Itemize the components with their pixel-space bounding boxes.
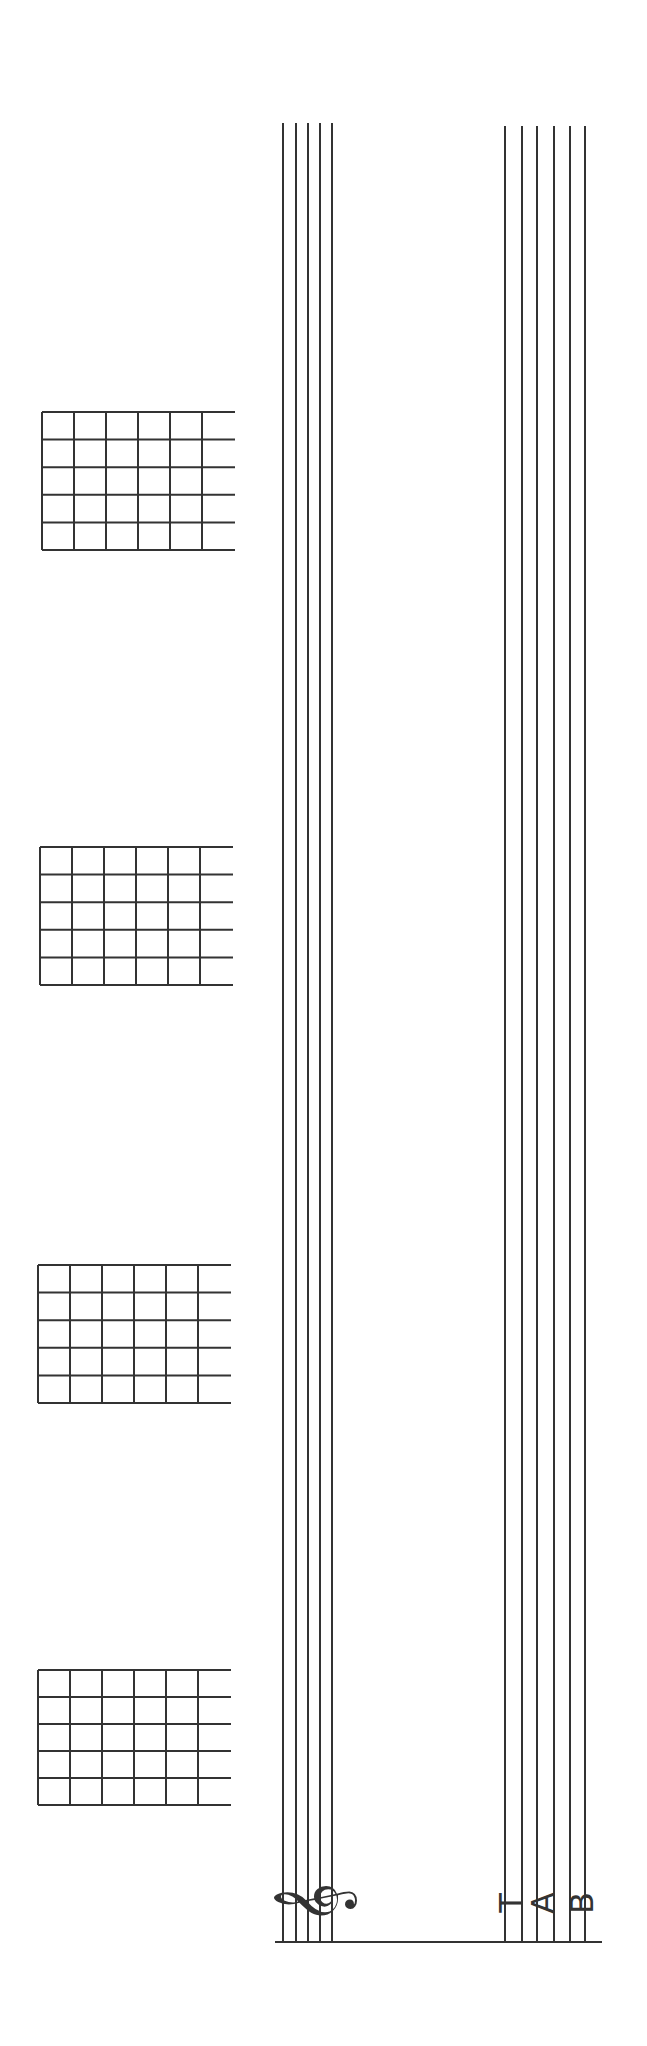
standard-staff bbox=[283, 123, 332, 1942]
chord-grid-1 bbox=[42, 412, 235, 550]
chord-grid-4 bbox=[38, 1670, 231, 1805]
chord-grids bbox=[38, 412, 235, 1805]
chord-grid-2 bbox=[40, 847, 233, 985]
tab-letter-a: A bbox=[524, 1892, 562, 1914]
tab-letter-b: B bbox=[563, 1892, 601, 1914]
tab-label: T A B bbox=[492, 1892, 601, 1914]
music-sheet: 𝄞 T A B bbox=[0, 0, 647, 2046]
chord-grid-3 bbox=[38, 1265, 231, 1403]
svg-text:𝄞: 𝄞 bbox=[272, 1883, 357, 1924]
tab-staff bbox=[505, 126, 585, 1942]
treble-clef-icon: 𝄞 bbox=[272, 1883, 357, 1924]
